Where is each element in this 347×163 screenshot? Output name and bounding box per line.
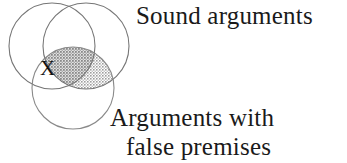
x-mark-label: X [40, 57, 55, 81]
sound-arguments-label: Sound arguments [136, 2, 313, 31]
false-premises-label: Arguments withfalse premises [110, 104, 274, 161]
false-premises-line2: false premises [110, 133, 274, 162]
venn-diagram-figure: X Sound arguments Arguments withfalse pr… [0, 0, 347, 163]
false-premises-line1: Arguments with [110, 104, 274, 131]
